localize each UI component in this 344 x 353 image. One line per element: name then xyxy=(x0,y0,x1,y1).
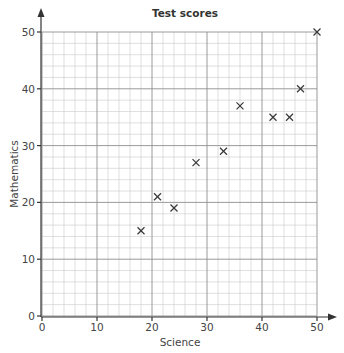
y-tick-label: 50 xyxy=(22,26,35,38)
grid xyxy=(42,32,317,316)
x-tick-label: 40 xyxy=(255,321,268,333)
y-tick-label: 10 xyxy=(22,253,35,265)
x-tick-label: 30 xyxy=(200,321,213,333)
y-axis-arrow-icon xyxy=(38,8,45,17)
x-tick-label: 0 xyxy=(39,321,46,333)
chart-title: Test scores xyxy=(152,7,218,19)
data-point-marker xyxy=(220,148,227,155)
y-tick-label: 0 xyxy=(28,310,35,322)
x-tick-label: 20 xyxy=(145,321,158,333)
y-tick-label: 20 xyxy=(22,196,35,208)
x-tick-label: 10 xyxy=(90,321,103,333)
x-axis-arrow-icon xyxy=(328,314,337,321)
y-axis-label: Mathematics xyxy=(8,140,20,208)
data-point-marker xyxy=(154,193,161,200)
x-axis-label: Science xyxy=(160,336,201,348)
scatter-chart: Test scores 0102030405001020304050 Scien… xyxy=(0,0,344,353)
x-tick-label: 50 xyxy=(310,321,323,333)
y-tick-label: 30 xyxy=(22,140,35,152)
y-tick-label: 40 xyxy=(22,83,35,95)
data-point-marker xyxy=(286,114,293,121)
